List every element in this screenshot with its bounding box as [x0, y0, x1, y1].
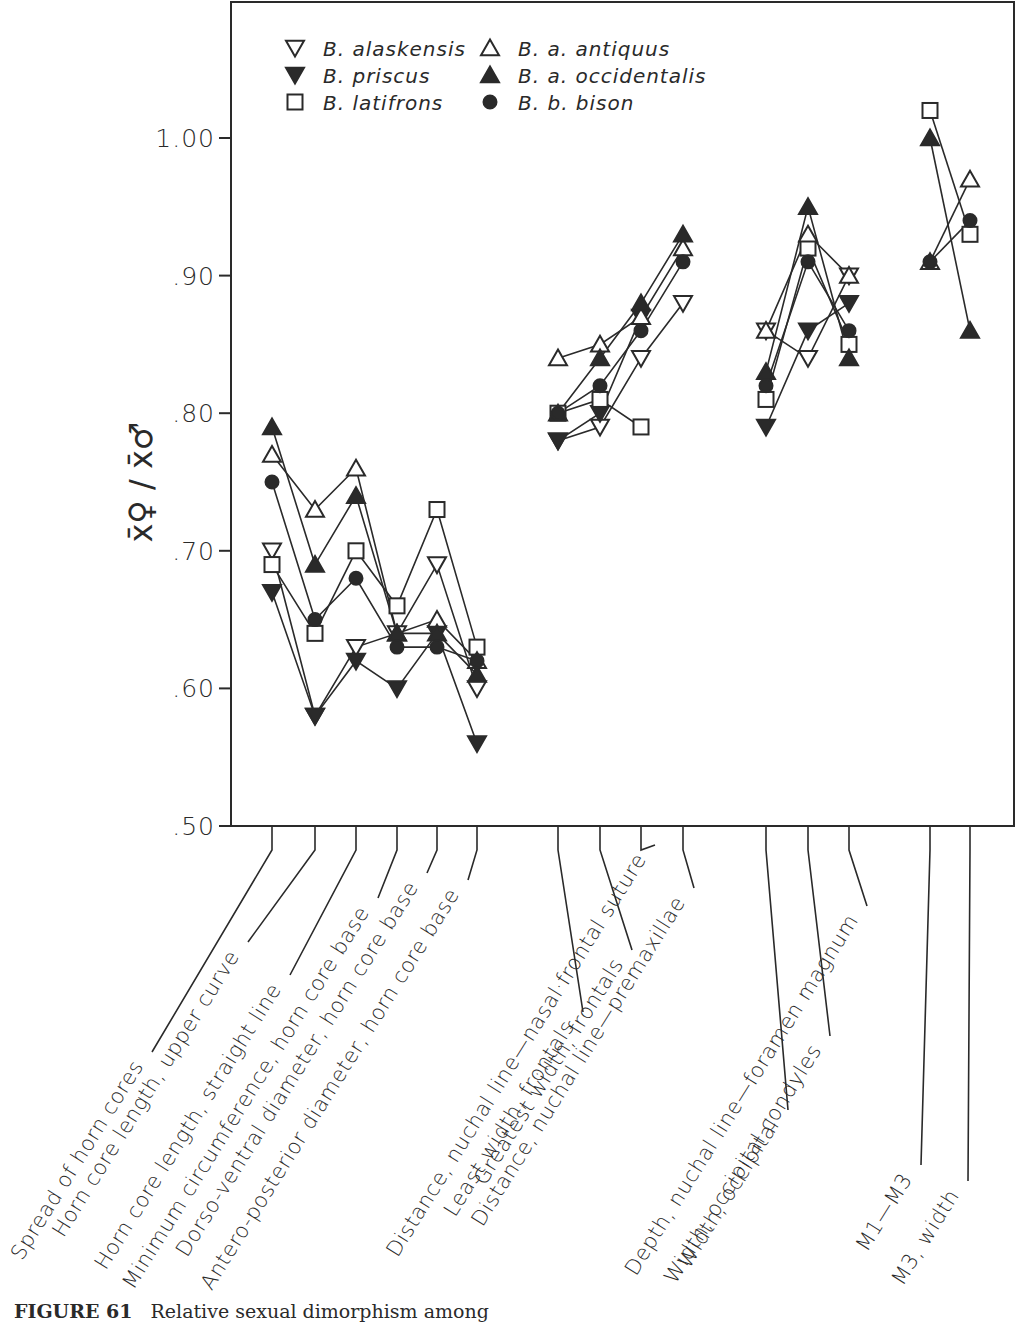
markers-b-a-occidentalis: [263, 129, 979, 681]
x-leader-line: [921, 826, 930, 1165]
data-point: [431, 641, 444, 654]
data-point: [265, 557, 280, 572]
y-tick-label: .60: [172, 674, 215, 703]
legend: B. alaskensisB. a. antiquusB. priscusB. …: [286, 37, 707, 115]
series-line: [272, 427, 477, 675]
data-point: [593, 392, 608, 407]
data-point: [390, 598, 405, 613]
data-point: [760, 379, 773, 392]
series-line: [558, 262, 683, 413]
x-leader-line: [968, 826, 970, 1181]
data-point: [757, 420, 775, 436]
markers-b-a-antiquus: [263, 171, 979, 668]
data-point: [799, 323, 817, 339]
data-point: [632, 351, 650, 367]
data-point: [924, 255, 937, 268]
legend-marker-icon: [286, 68, 304, 84]
data-point: [799, 351, 817, 367]
legend-item: B. alaskensis: [286, 37, 466, 61]
data-point: [388, 681, 406, 697]
x-leader-line: [468, 826, 477, 880]
series-b-b-bison: [272, 221, 970, 661]
x-leader-line: [427, 826, 437, 873]
data-point: [391, 641, 404, 654]
data-point: [677, 255, 690, 268]
y-tick-label: 1.00: [155, 124, 215, 153]
y-axis: .50.60.70.80.901.00: [155, 124, 231, 841]
data-point: [349, 543, 364, 558]
x-category-label: Depth, nuchal line—foramen magnum: [620, 910, 863, 1280]
data-point: [347, 654, 365, 670]
data-point: [634, 419, 649, 434]
data-point: [594, 379, 607, 392]
sexual-dimorphism-chart: .50.60.70.80.901.00 x̄♀ / x̄♂ B. alasken…: [0, 0, 1029, 1335]
data-point: [674, 226, 692, 242]
caption-text: Relative sexual dimorphism among: [151, 1300, 489, 1322]
data-point: [306, 709, 324, 725]
x-category-9: Distance, nuchal line—nasal·frontal sutu…: [381, 826, 655, 1261]
data-point: [549, 434, 567, 450]
legend-label: B. b. bison: [518, 91, 634, 115]
y-tick-label: .90: [172, 262, 215, 291]
data-point: [674, 296, 692, 312]
data-point: [468, 681, 486, 697]
data-point: [802, 255, 815, 268]
legend-label: B. a. antiquus: [518, 37, 670, 61]
legend-label: B. priscus: [323, 64, 430, 88]
legend-item: B. priscus: [286, 64, 430, 88]
figure-caption: FIGURE 61Relative sexual dimorphism amon…: [14, 1300, 489, 1322]
legend-item: B. latifrons: [288, 91, 444, 115]
legend-label: B. a. occidentalis: [518, 64, 707, 88]
data-point: [266, 476, 279, 489]
legend-marker-icon: [481, 66, 499, 82]
data-point: [350, 572, 363, 585]
data-point: [263, 585, 281, 601]
series-line: [558, 303, 683, 441]
data-point: [759, 392, 774, 407]
data-point: [430, 502, 445, 517]
legend-item: B. b. bison: [484, 91, 635, 115]
data-point: [963, 227, 978, 242]
data-point: [549, 350, 567, 366]
series-line: [930, 111, 970, 235]
legend-marker-icon: [288, 95, 303, 110]
x-leader-line: [248, 826, 315, 942]
figure-number: FIGURE 61: [14, 1300, 133, 1322]
data-point: [840, 296, 858, 312]
data-point: [552, 407, 565, 420]
x-leader-line: [641, 826, 655, 850]
x-category-label: Distance, nuchal line—nasal·frontal sutu…: [381, 849, 651, 1261]
data-point: [263, 418, 281, 434]
data-point: [799, 198, 817, 214]
data-series: [263, 103, 979, 752]
data-point: [471, 654, 484, 667]
legend-item: B. a. occidentalis: [481, 64, 707, 88]
legend-marker-icon: [484, 96, 497, 109]
data-point: [306, 556, 324, 572]
data-point: [635, 324, 648, 337]
data-point: [428, 557, 446, 573]
data-point: [964, 214, 977, 227]
series-b-a-occidentalis: [272, 138, 970, 675]
y-axis-title: x̄♀ / x̄♂: [122, 421, 160, 542]
series-b-a-antiquus: [272, 179, 970, 661]
x-category-12: Width, occipital condyles: [659, 826, 830, 1288]
x-leader-line: [378, 826, 397, 898]
series-line: [558, 234, 683, 413]
y-tick-label: .50: [172, 812, 215, 841]
data-point: [308, 626, 323, 641]
x-category-5: Dorso-ventral diameter, horn core base: [171, 826, 437, 1261]
data-point: [961, 171, 979, 187]
data-point: [961, 322, 979, 338]
data-point: [347, 460, 365, 476]
data-point: [468, 736, 486, 752]
y-axis-label: x̄♀ / x̄♂: [122, 421, 160, 542]
legend-marker-icon: [481, 39, 499, 55]
legend-label: B. alaskensis: [323, 37, 466, 61]
data-point: [632, 295, 650, 311]
markers-b-b-bison: [266, 214, 977, 667]
series-line: [272, 482, 477, 661]
data-point: [923, 103, 938, 118]
y-tick-label: .70: [172, 537, 215, 566]
legend-item: B. a. antiquus: [481, 37, 670, 61]
